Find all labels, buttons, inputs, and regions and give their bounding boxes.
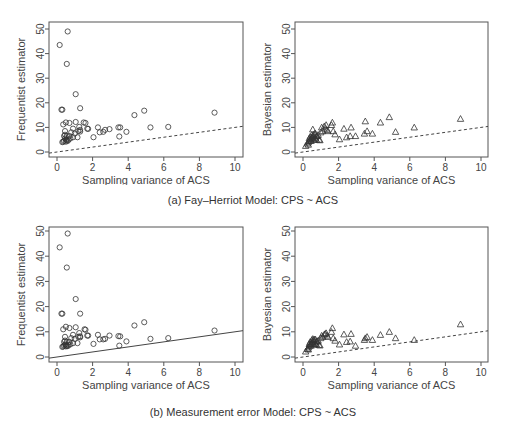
circle-marker [97, 337, 102, 342]
x-tick-label: 0 [54, 162, 60, 173]
y-tick-label: 50 [281, 23, 292, 35]
y-tick-label: 10 [281, 121, 292, 133]
circle-marker [73, 119, 78, 124]
triangle-marker [392, 129, 398, 135]
x-tick-label: 6 [161, 162, 167, 173]
y-tick-label: 30 [35, 72, 46, 84]
circle-marker [132, 113, 137, 118]
y-tick-label: 20 [281, 97, 292, 109]
x-tick-label: 8 [197, 162, 203, 173]
triangle-marker [348, 124, 354, 130]
circle-marker [78, 106, 83, 111]
y-axis-label: Frequentist estimator [15, 243, 27, 347]
triangle-marker [411, 124, 417, 130]
x-tick-label: 8 [443, 162, 449, 173]
data-points [302, 114, 463, 149]
triangle-marker [362, 118, 368, 124]
y-tick-label: 0 [35, 149, 46, 155]
circle-marker [57, 245, 62, 250]
x-tick-label: 2 [336, 162, 342, 173]
circle-marker [166, 124, 171, 129]
y-axis-label: Bayesian estimator [261, 247, 273, 341]
panel-b-right: 024681001020304050Sampling variance of A… [253, 205, 506, 395]
panel-b-left: 024681001020304050Sampling variance of A… [0, 205, 253, 395]
y-tick-label: 40 [35, 250, 46, 262]
plot-frame [49, 22, 243, 157]
y-tick-label: 40 [281, 250, 292, 262]
y-tick-label: 20 [35, 301, 46, 313]
plot-frame [295, 22, 488, 157]
data-points [57, 29, 217, 145]
panel-a-right: 024681001020304050Sampling variance of A… [253, 0, 506, 185]
triangle-marker [386, 114, 392, 120]
circle-marker [91, 341, 96, 346]
y-tick-label: 10 [35, 326, 46, 338]
circle-marker [212, 110, 217, 115]
x-tick-label: 10 [475, 162, 487, 173]
circle-marker [117, 134, 122, 139]
circle-marker [73, 296, 78, 301]
circle-marker [65, 231, 70, 236]
x-tick-label: 0 [300, 162, 306, 173]
x-axis-label: Sampling variance of ACS [82, 379, 210, 391]
triangle-marker [341, 331, 347, 337]
y-tick-label: 20 [35, 97, 46, 109]
x-tick-label: 0 [54, 367, 60, 378]
x-tick-label: 4 [371, 162, 377, 173]
x-tick-label: 2 [336, 367, 342, 378]
triangle-marker [377, 119, 383, 125]
x-axis-label: Sampling variance of ACS [328, 379, 456, 391]
y-axis-label: Bayesian estimator [261, 42, 273, 136]
y-tick-label: 10 [281, 326, 292, 338]
circle-marker [124, 129, 129, 134]
x-tick-label: 4 [371, 367, 377, 378]
triangle-marker [457, 321, 463, 327]
x-tick-label: 2 [90, 162, 96, 173]
y-tick-label: 30 [281, 72, 292, 84]
circle-marker [67, 120, 72, 125]
circle-marker [142, 108, 147, 113]
x-tick-label: 8 [197, 367, 203, 378]
triangle-marker [348, 331, 354, 337]
x-tick-label: 6 [407, 162, 413, 173]
y-tick-label: 30 [35, 275, 46, 287]
data-points [302, 321, 463, 354]
x-tick-label: 4 [125, 162, 131, 173]
x-tick-label: 6 [161, 367, 167, 378]
x-axis-label: Sampling variance of ACS [82, 174, 210, 185]
scatter-plot-a-right: 024681001020304050Sampling variance of A… [253, 0, 506, 185]
plot-frame [49, 227, 243, 362]
y-tick-label: 0 [35, 354, 46, 360]
circle-marker [73, 325, 78, 330]
circle-marker [64, 61, 69, 66]
y-tick-label: 40 [35, 48, 46, 60]
x-tick-label: 6 [407, 367, 413, 378]
scatter-plot-a-left: 024681001020304050Sampling variance of A… [0, 0, 253, 185]
y-tick-label: 50 [35, 23, 46, 35]
scatter-plot-b-right: 024681001020304050Sampling variance of A… [253, 205, 506, 395]
x-tick-label: 10 [229, 162, 241, 173]
triangle-marker [328, 329, 334, 335]
circle-marker [78, 311, 83, 316]
y-axis-label: Frequentist estimator [15, 38, 27, 142]
triangle-marker [341, 125, 347, 131]
circle-marker [73, 92, 78, 97]
y-tick-label: 50 [281, 225, 292, 237]
x-tick-label: 4 [125, 367, 131, 378]
circle-marker [64, 265, 69, 270]
caption-b: (b) Measurement error Model: CPS ~ ACS [0, 406, 506, 418]
circle-marker [91, 135, 96, 140]
x-axis-label: Sampling variance of ACS [328, 174, 456, 185]
x-tick-label: 0 [300, 367, 306, 378]
circle-marker [132, 323, 137, 328]
circle-marker [67, 325, 72, 330]
triangle-marker [392, 335, 398, 341]
scatter-plot-b-left: 024681001020304050Sampling variance of A… [0, 205, 253, 395]
plot-frame [295, 227, 488, 362]
y-tick-label: 40 [281, 48, 292, 60]
x-tick-label: 2 [90, 367, 96, 378]
circle-marker [107, 333, 112, 338]
circle-marker [166, 336, 171, 341]
circle-marker [148, 336, 153, 341]
triangle-marker [457, 116, 463, 122]
